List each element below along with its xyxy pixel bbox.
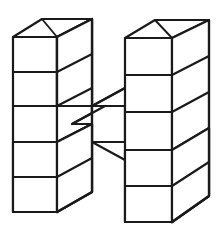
isometric-cube-drawing	[0, 0, 221, 246]
bridge-bottom-edge	[92, 142, 125, 160]
cube-figure-canvas: Line drawing of a 3D structure built fro…	[0, 0, 221, 246]
